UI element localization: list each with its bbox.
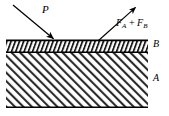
- layer-b-block: [6, 40, 148, 52]
- emitted-flux-label: FA + FB: [116, 18, 147, 28]
- layer-b-label: B: [153, 39, 159, 49]
- flux-b-subscript: B: [143, 22, 147, 30]
- two-layer-slab-diagram: P FA + FB B A: [0, 0, 169, 116]
- flux-a-subscript: A: [122, 22, 126, 30]
- layer-a-block: [6, 52, 148, 108]
- incident-power-label: P: [42, 4, 49, 15]
- plus-operator: +: [126, 17, 137, 28]
- layer-a-label: A: [153, 73, 159, 83]
